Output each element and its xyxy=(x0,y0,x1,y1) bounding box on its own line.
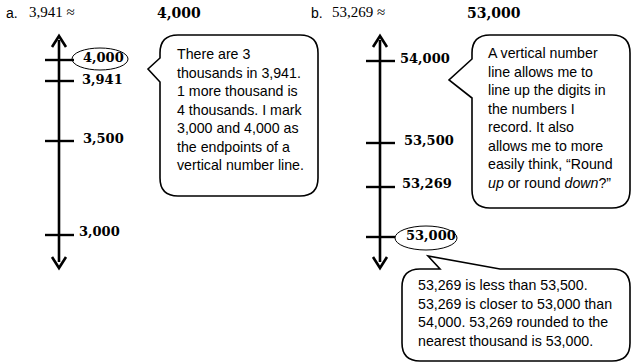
bubble-line: vertical number line. xyxy=(177,156,317,175)
tick-label-3000: 3,000 xyxy=(79,224,120,239)
bubble-line: line up the digits in xyxy=(488,81,630,100)
problem-b-expression: 53,269 ≈ xyxy=(332,4,385,21)
bubble-line: allows me to more xyxy=(488,137,630,156)
tick-label-53500: 53,500 xyxy=(404,133,454,148)
tick-label-3500: 3,500 xyxy=(83,131,124,146)
bubble-line: 54,000. 53,269 rounded to the xyxy=(418,313,628,332)
problem-a-expression: 3,941 ≈ xyxy=(29,4,75,21)
problem-a-label: a. xyxy=(6,5,18,21)
tick-label-3941: 3,941 xyxy=(82,72,123,87)
bubble-line: 53,269 is less than 53,500. xyxy=(418,276,628,295)
bubble-text-fragment: ?” xyxy=(598,175,611,191)
tick-label-4000: 4,000 xyxy=(83,50,124,65)
emphasis-down: down xyxy=(565,175,599,191)
bubble-line: nearest thousand is 53,000. xyxy=(418,332,628,351)
bubble-text-fragment: or round xyxy=(504,175,565,191)
problem-b-label: b. xyxy=(311,5,323,21)
speech-bubble-b-bottom-text: 53,269 is less than 53,500. 53,269 is cl… xyxy=(418,276,628,350)
bubble-line: A vertical number xyxy=(488,44,630,63)
bubble-line: 4 thousands. I mark xyxy=(177,101,317,120)
emphasis-up: up xyxy=(488,175,504,191)
speech-bubble-b-top-text: A vertical number line allows me to line… xyxy=(488,44,630,192)
problem-b-answer: 53,000 xyxy=(467,5,521,21)
bubble-line: the numbers I xyxy=(488,100,630,119)
bubble-line: thousands in 3,941. xyxy=(177,64,317,83)
tick-label-53000: 53,000 xyxy=(406,228,456,243)
bubble-line: 3,000 and 4,000 as xyxy=(177,119,317,138)
bubble-line: There are 3 xyxy=(177,45,317,64)
bubble-line: 1 more thousand is xyxy=(177,82,317,101)
tick-label-53269: 53,269 xyxy=(402,176,452,191)
speech-bubble-a-text: There are 3 thousands in 3,941. 1 more t… xyxy=(177,45,317,175)
bubble-line: easily think, “Round xyxy=(488,155,630,174)
problem-a-answer: 4,000 xyxy=(157,5,201,21)
bubble-line: 53,269 is closer to 53,000 than xyxy=(418,295,628,314)
bubble-line: record. It also xyxy=(488,118,630,137)
tick-label-54000: 54,000 xyxy=(400,51,450,66)
bubble-line: the endpoints of a xyxy=(177,138,317,157)
bubble-line: up or round down?” xyxy=(488,174,630,193)
bubble-line: line allows me to xyxy=(488,63,630,82)
